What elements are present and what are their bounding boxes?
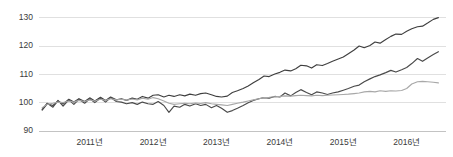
x-axis-tick-labels: 2011년2012년2013년2014년2015년2016년	[77, 137, 421, 147]
y-tick-label-100: 100	[19, 97, 33, 107]
series-line-series_3	[42, 81, 438, 107]
data-series	[42, 18, 438, 113]
y-tick-label-120: 120	[19, 40, 33, 50]
chart-canvas: 90100110120130 2011년2012년2013년2014년2015년…	[0, 0, 453, 157]
x-tick-label-2015: 2015년	[330, 137, 357, 147]
line-chart-figure: 90100110120130 2011년2012년2013년2014년2015년…	[0, 0, 453, 157]
x-tick-label-2011: 2011년	[77, 137, 103, 147]
x-tick-label-2016: 2016년	[393, 137, 420, 147]
y-tick-label-110: 110	[19, 69, 33, 79]
x-tick-label-2012: 2012년	[140, 137, 167, 147]
y-tick-label-90: 90	[24, 125, 34, 135]
series-line-series_1	[42, 18, 438, 110]
y-axis-tick-labels: 90100110120130	[19, 12, 33, 135]
y-tick-label-130: 130	[19, 12, 33, 22]
x-tick-label-2013: 2013년	[203, 137, 230, 147]
gridlines	[39, 18, 446, 131]
x-tick-label-2014: 2014년	[266, 137, 293, 147]
